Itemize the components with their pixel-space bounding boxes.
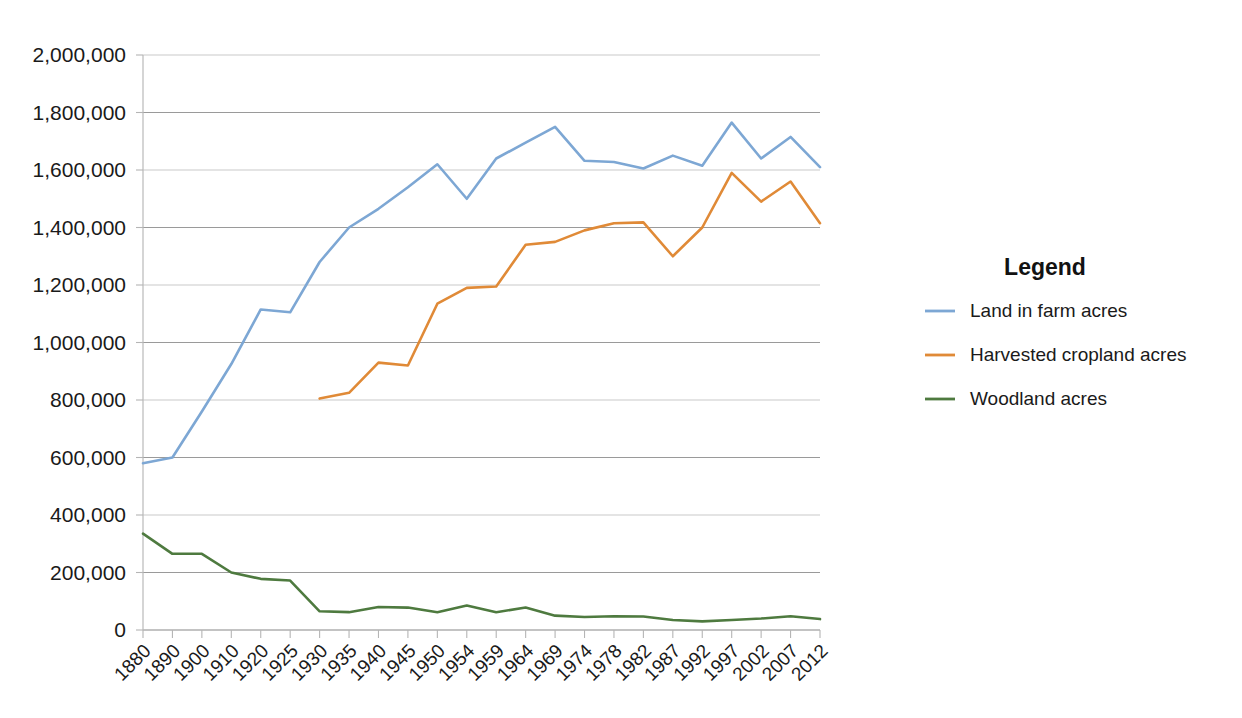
y-axis-label: 2,000,000 [33,43,126,66]
y-axis-label: 800,000 [50,388,126,411]
x-axis-tick-labels: 1880189019001910192019251930193519401945… [110,640,832,685]
y-axis-label: 600,000 [50,446,126,469]
y-axis-label: 0 [114,618,126,641]
legend-item-land-in-farm-acres[interactable]: Land in farm acres [925,300,1127,321]
series-line-harvested-cropland-acres [320,173,820,399]
data-series-lines [143,123,820,622]
legend-title: Legend [1004,254,1086,280]
y-axis-label: 1,400,000 [33,216,126,239]
legend-label: Woodland acres [970,388,1107,409]
legend-item-harvested-cropland-acres[interactable]: Harvested cropland acres [925,344,1187,365]
legend-item-woodland-acres[interactable]: Woodland acres [925,388,1107,409]
y-axis-label: 1,000,000 [33,331,126,354]
y-axis-label: 1,600,000 [33,158,126,181]
legend-label: Harvested cropland acres [970,344,1187,365]
chart-figure: 0200,000400,000600,000800,0001,000,0001,… [0,0,1242,718]
y-axis-label: 400,000 [50,503,126,526]
y-axis-label: 1,200,000 [33,273,126,296]
y-axis-tick-labels: 0200,000400,000600,000800,0001,000,0001,… [33,43,126,641]
series-line-woodland-acres [143,534,820,622]
legend-label: Land in farm acres [970,300,1127,321]
y-axis-label: 200,000 [50,561,126,584]
series-line-land-in-farm-acres [143,123,820,464]
y-axis-label: 1,800,000 [33,101,126,124]
line-chart-canvas: 0200,000400,000600,000800,0001,000,0001,… [0,0,1242,718]
chart-legend: LegendLand in farm acresHarvested cropla… [925,254,1187,409]
